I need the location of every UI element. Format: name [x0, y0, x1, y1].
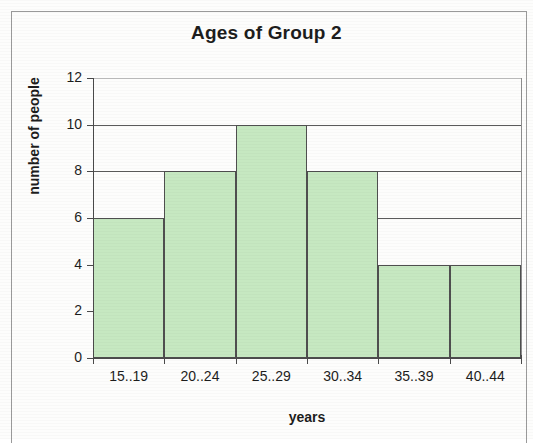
y-tick-mark [87, 218, 93, 219]
y-tick-label: 2 [52, 302, 82, 318]
x-tick-mark [378, 355, 379, 364]
x-tick-mark [93, 355, 94, 364]
bar [164, 171, 235, 358]
bar [378, 265, 449, 358]
x-category-label: 20..24 [164, 368, 235, 384]
plot-area [93, 78, 521, 358]
x-tick-mark [164, 355, 165, 364]
y-axis-line [93, 78, 94, 359]
y-tick-mark [87, 125, 93, 126]
x-tick-mark [307, 355, 308, 364]
y-tick-label: 4 [52, 256, 82, 272]
chart-title: Ages of Group 2 [0, 22, 533, 44]
y-tick-mark [87, 78, 93, 79]
x-axis-title: years [93, 409, 521, 425]
x-category-label: 40..44 [450, 368, 521, 384]
bar [307, 171, 378, 358]
x-category-label: 35..39 [378, 368, 449, 384]
plot-right-border [521, 78, 522, 359]
y-tick-label: 12 [52, 69, 82, 85]
x-category-label: 15..19 [93, 368, 164, 384]
y-tick-label: 10 [52, 116, 82, 132]
x-category-label: 30..34 [307, 368, 378, 384]
gridline-10 [93, 125, 521, 126]
y-tick-mark [87, 311, 93, 312]
y-tick-label: 8 [52, 162, 82, 178]
bar [93, 218, 164, 358]
y-tick-label: 0 [52, 349, 82, 365]
x-tick-mark [236, 355, 237, 364]
bar [450, 265, 521, 358]
y-tick-mark [87, 265, 93, 266]
x-tick-mark [450, 355, 451, 364]
y-axis-title: number of people [26, 36, 42, 236]
bar [236, 125, 307, 358]
y-tick-mark [87, 171, 93, 172]
x-category-label: 25..29 [236, 368, 307, 384]
y-tick-label: 6 [52, 209, 82, 225]
gridline-12 [93, 78, 521, 79]
x-tick-mark [521, 355, 522, 364]
